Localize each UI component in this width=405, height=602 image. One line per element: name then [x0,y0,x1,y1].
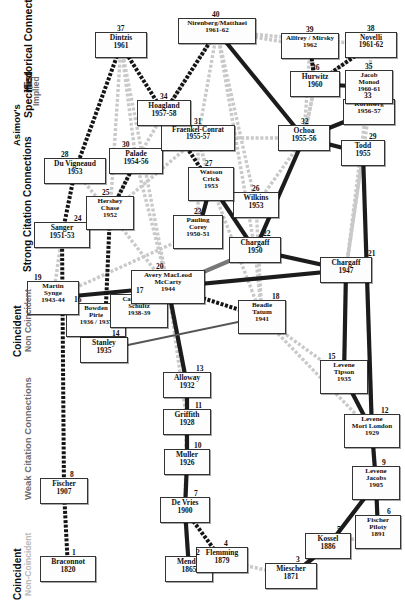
node-index-25: 25 [102,188,110,197]
node-index-17: 17 [136,286,144,295]
node-index-28: 28 [61,150,69,159]
node-5-kossel[interactable]: Kossel1886 [305,533,351,559]
legend-label-weak-citation-1: Non-Coincident [23,533,33,596]
node-index-8: 8 [70,470,74,479]
node-year: 1960 [293,81,337,89]
node-index-15: 15 [328,352,336,361]
node-index-7: 7 [194,489,198,498]
node-year: 1955-56 [281,135,327,143]
node-year: 1926 [167,459,207,467]
node-7-de-vries[interactable]: De Vries1900 [160,497,210,523]
node-year: 1947 [323,267,369,275]
node-3-miescher[interactable]: Miescher1871 [265,563,317,589]
node-12-levene-mori-london[interactable]: LeveneMori London1929 [344,414,400,448]
node-year: 1955-57 [164,134,232,141]
edge-8-24 [62,235,64,491]
legend-label-weak-citation-2: Weak Citation Connections [22,377,33,500]
node-year: 1956-57 [346,108,392,115]
legend-label-strong-citation-2: Strong Citation Connections [22,136,33,272]
node-index-29: 29 [369,132,377,141]
node-27-watson-crick[interactable]: WatsonCrick1953 [188,167,234,201]
node-15-levene-tipson[interactable]: LeveneTipson1935 [320,360,368,394]
node-index-18: 18 [272,292,280,301]
node-32-ochoa[interactable]: Ochoa1955-56 [278,125,330,151]
node-index-3: 3 [296,555,300,564]
node-26-wilkins[interactable]: Wilkins1953 [233,192,279,218]
node-year: 1953 [47,168,103,176]
node-year: 1941 [241,316,283,323]
node-30-palade[interactable]: Palade1954-56 [109,148,163,174]
node-8-fischer[interactable]: Fischer1907 [40,478,88,504]
node-index-22: 22 [263,229,271,238]
legend-label-asimov-3: Historical Connections [22,0,34,92]
node-index-27: 27 [205,159,213,168]
node-index-6: 6 [387,507,391,516]
node-index-11: 11 [195,401,202,410]
node-year: 1961-62 [181,27,253,34]
node-year: 1951-53 [37,232,87,240]
node-23-pauling-corey[interactable]: PaulingCorey1950-51 [173,215,223,249]
node-year: 1905 [355,482,397,489]
node-index-2: 2 [196,548,200,557]
node-28-du-vigneaud[interactable]: Du Vigneaud1953 [44,158,106,184]
node-index-24: 24 [74,214,82,223]
node-year: 1929 [347,430,397,437]
diagram-canvas: Asimov'sSpecifiedImpliedHistorical Conne… [0,0,405,602]
node-31-fraenkel-conrat[interactable]: Fraenkel-Conrat1955-57 [161,125,235,151]
node-year: 1957-58 [140,110,188,118]
node-29-todd[interactable]: Todd1955 [341,140,385,166]
node-40-nirenberg-matthaei[interactable]: Nirenberg/Matthaei1961-62 [178,18,256,44]
node-13-alloway[interactable]: Alloway1932 [163,372,211,398]
node-year: 1907 [43,488,85,496]
node-25-hershey-chase[interactable]: HersheyChase1952 [86,196,134,230]
node-index-12: 12 [381,406,389,415]
node-year: 1954-56 [112,158,160,166]
node-index-34: 34 [160,92,168,101]
node-37-dintzis[interactable]: Dintzis1961 [95,32,147,58]
node-year: 1961 [98,42,144,50]
node-index-21: 21 [368,249,376,258]
node-year: 1962 [284,42,336,49]
node-36-hurwitz[interactable]: Hurwitz1960 [290,71,340,97]
node-index-31: 31 [194,117,202,126]
legend-label-strong-citation-1: Non Coincident [23,289,33,352]
node-14-stanley[interactable]: Stanley1935 [80,337,128,363]
node-6-fischer-piloty[interactable]: FischerPiloty1891 [355,515,401,549]
node-year: 1891 [358,531,398,538]
node-9-levene-jacobs[interactable]: LeveneJacobs1905 [352,466,400,500]
node-year: 1879 [199,557,245,565]
node-34-hoagland[interactable]: Hoagland1957-58 [137,100,191,126]
node-index-30: 30 [122,140,130,149]
node-38-novelli[interactable]: Novelli1961-62 [345,32,397,58]
node-year: 1871 [268,573,314,581]
legend-label-asimov-0: Asimov's [11,104,22,146]
node-year: 1953 [191,183,231,190]
node-10-muller[interactable]: Muller1926 [164,449,210,475]
node-4-flemming[interactable]: Flemming1879 [196,547,248,573]
node-22-chargaff[interactable]: Chargaff1950 [229,237,281,263]
node-index-14: 14 [112,329,120,338]
node-year: 1955 [344,150,382,158]
node-index-39: 39 [306,25,314,34]
node-year: 1950-51 [176,231,220,238]
node-index-35: 35 [365,62,373,71]
legend-label-weak-citation-0: Coincident [12,548,23,600]
legend-column: Asimov'sSpecifiedImpliedHistorical Conne… [0,0,44,602]
node-year: 1932 [166,382,208,390]
node-index-9: 9 [382,458,386,467]
node-index-36: 36 [312,63,320,72]
node-index-10: 10 [194,441,202,450]
node-index-1: 1 [72,548,76,557]
node-18-beadle-tatum[interactable]: BeadleTatum1941 [238,300,286,334]
node-39-allfrey-mirsky[interactable]: Allfrey / Mirsky1962 [281,33,339,59]
node-21-chargaff[interactable]: Chargaff1947 [320,257,372,283]
node-11-griffith[interactable]: Griffith1928 [163,409,211,435]
node-index-32: 32 [301,117,309,126]
node-index-23: 23 [194,207,202,216]
legend-label-strong-citation-0: Coincident [12,305,23,357]
node-year: 1950 [232,247,278,255]
node-index-26: 26 [252,184,260,193]
node-year: 1961-62 [348,41,394,48]
node-1-braconnot[interactable]: Braconnot1820 [40,556,96,582]
node-year: 1953 [236,202,276,210]
